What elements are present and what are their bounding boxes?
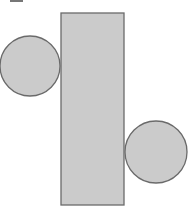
left-circle [0, 36, 60, 96]
right-circle [125, 121, 187, 183]
diagram-canvas [0, 0, 193, 217]
tall-rectangle [61, 13, 124, 205]
